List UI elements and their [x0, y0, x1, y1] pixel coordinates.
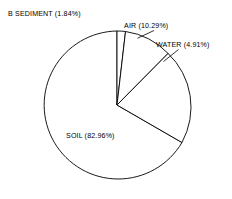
pie-chart: B SEDIMENT (1.84%) AIR (10.29%) WATER (4… [0, 0, 232, 199]
slice-label-b-sediment: B SEDIMENT (1.84%) [8, 10, 81, 18]
slice-label-air: AIR (10.29%) [124, 22, 168, 30]
slice-label-water: WATER (4.91%) [156, 41, 210, 49]
pie-chart-canvas: B SEDIMENT (1.84%) AIR (10.29%) WATER (4… [0, 0, 232, 199]
slice-label-soil: SOIL (82.96%) [66, 132, 115, 140]
